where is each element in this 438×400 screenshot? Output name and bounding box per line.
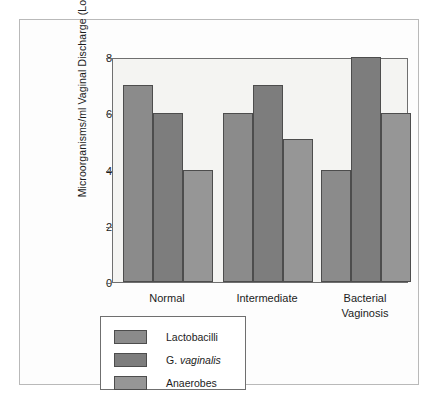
legend-label: Lactobacilli (166, 331, 218, 343)
legend-swatch (114, 353, 147, 367)
bar (123, 85, 153, 282)
legend-label: G. vaginalis (166, 354, 221, 366)
bar (283, 139, 313, 282)
legend: LactobacilliG. vaginalisAnaerobes (100, 316, 246, 390)
bar (351, 57, 381, 282)
legend-label: Anaerobes (166, 377, 217, 389)
legend-swatch (114, 330, 147, 344)
y-tick-mark (106, 283, 112, 284)
bar (223, 113, 253, 282)
x-axis-label: Intermediate (212, 291, 322, 306)
bar (381, 113, 411, 282)
x-axis-label: Bacterial Vaginosis (310, 291, 420, 321)
figure-frame: Microorganisms/ml Vaginal Discharge (Log… (19, 19, 419, 385)
legend-item: Lactobacilli (114, 329, 218, 345)
legend-swatch (114, 376, 147, 390)
bar (153, 113, 183, 282)
bar (321, 170, 351, 283)
bar-chart: Microorganisms/ml Vaginal Discharge (Log… (20, 20, 418, 384)
bar (253, 85, 283, 282)
legend-item: Anaerobes (114, 375, 217, 391)
legend-item: G. vaginalis (114, 352, 221, 368)
x-axis-label: Normal (112, 291, 222, 306)
bar (183, 170, 213, 283)
plot-area (112, 58, 408, 283)
